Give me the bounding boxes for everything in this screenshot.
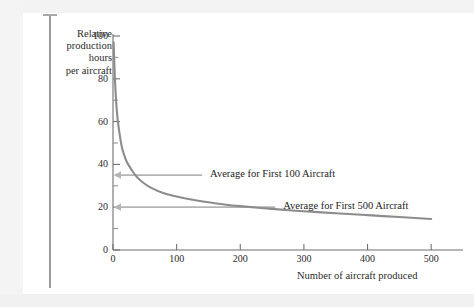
x-tick-label-400: 400	[353, 253, 383, 264]
scanned-page: Relative production hours per aircraft 0…	[0, 0, 474, 307]
learning-curve-line	[114, 42, 432, 219]
x-tick-label-300: 300	[289, 253, 319, 264]
y-tick-label-80: 80	[82, 73, 108, 84]
x-tick-label-200: 200	[225, 253, 255, 264]
annotation-label-1: Average for First 500 Aircraft	[283, 200, 408, 211]
annotation-arrow-head-0	[114, 172, 122, 179]
learning-curve-chart: Relative production hours per aircraft 0…	[0, 0, 474, 307]
x-tick-label-100: 100	[162, 253, 192, 264]
x-axis-major-ticks	[113, 244, 431, 250]
annotation-label-0: Average for First 100 Aircraft	[210, 168, 335, 179]
y-tick-label-40: 40	[82, 158, 108, 169]
x-tick-label-0: 0	[98, 253, 128, 264]
y-tick-label-60: 60	[82, 116, 108, 127]
y-tick-label-100: 100	[82, 30, 108, 41]
y-tick-label-20: 20	[82, 201, 108, 212]
x-tick-label-500: 500	[416, 253, 446, 264]
x-axis-title: Number of aircraft produced	[297, 270, 417, 281]
annotation-arrow-head-1	[114, 204, 122, 211]
